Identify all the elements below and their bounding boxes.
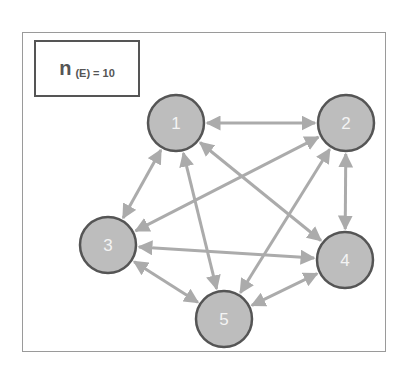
node-1: 1: [148, 95, 204, 151]
edges-group: [123, 123, 346, 305]
node-label: 4: [340, 251, 349, 270]
complete-graph: 12345: [0, 0, 410, 368]
node-2: 2: [318, 95, 374, 151]
edge-1-3: [123, 150, 161, 218]
edge-3-4: [139, 247, 314, 258]
node-label: 2: [341, 114, 350, 133]
edge-3-5: [134, 262, 198, 303]
node-5: 5: [196, 291, 252, 347]
node-label: 5: [219, 310, 228, 329]
node-4: 4: [317, 232, 373, 288]
edge-4-5: [252, 274, 317, 306]
node-3: 3: [80, 217, 136, 273]
node-label: 1: [171, 114, 180, 133]
edge-2-4: [345, 154, 346, 229]
edge-1-5: [183, 153, 216, 289]
node-label: 3: [103, 236, 112, 255]
nodes-group: 12345: [80, 95, 374, 347]
